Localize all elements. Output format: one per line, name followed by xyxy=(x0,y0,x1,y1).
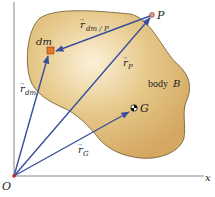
svg-text:body: body xyxy=(148,78,168,89)
dm-element-icon xyxy=(47,47,54,54)
svg-text:dm: dm xyxy=(25,89,36,97)
point-p-label: P xyxy=(156,9,165,22)
svg-text:→: → xyxy=(122,54,128,60)
point-g-label: G xyxy=(140,102,149,115)
svg-text:→: → xyxy=(79,16,85,22)
point-p-icon xyxy=(150,13,155,18)
origin-label: O xyxy=(2,180,11,193)
dm-label: dm xyxy=(36,36,52,47)
x-axis-label: x xyxy=(205,172,211,183)
center-of-mass-icon xyxy=(131,105,137,111)
svg-text:→: → xyxy=(19,80,25,86)
origin-point-icon xyxy=(12,174,16,178)
svg-text:G: G xyxy=(83,150,89,158)
svg-text:P: P xyxy=(127,63,133,71)
svg-text:B: B xyxy=(172,78,180,89)
label-r-g: r → G xyxy=(77,141,89,158)
svg-text:dm / P: dm / P xyxy=(86,25,109,33)
body-label: body B xyxy=(148,78,180,89)
svg-text:→: → xyxy=(77,141,83,147)
rigid-body-diagram: O x P dm G body B r → dm / P r → P r → d… xyxy=(0,0,215,197)
